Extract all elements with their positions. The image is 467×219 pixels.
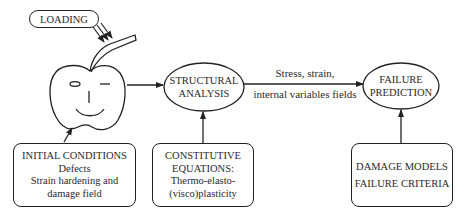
constitutive-equations-box: CONSTITUTIVE EQUATIONS: Thermo-elasto- (… — [152, 143, 254, 207]
damage-models-box: DAMAGE MODELS FAILURE CRITERIA — [351, 143, 453, 207]
failure-prediction-line1: FAILURE — [379, 73, 423, 86]
constitutive-equations-line: EQUATIONS: — [172, 163, 234, 176]
edge-label-line1: Stress, strain, — [250, 67, 360, 80]
structural-analysis-line2: ANALYSIS — [179, 87, 230, 100]
constitutive-equations-line: (visco)plasticity — [169, 188, 237, 201]
initial-conditions-title: INITIAL CONDITIONS — [22, 150, 127, 163]
structural-analysis-line1: STRUCTURAL — [170, 74, 239, 87]
edge-label-line2: internal variables fields — [244, 88, 366, 101]
damage-models-line: DAMAGE MODELS — [356, 158, 448, 175]
constitutive-equations-title: CONSTITUTIVE — [165, 150, 241, 163]
structural-analysis-label: STRUCTURAL ANALYSIS — [164, 64, 244, 110]
loading-label: LOADING — [29, 10, 99, 28]
loading-text: LOADING — [40, 14, 88, 25]
constitutive-equations-line: Thermo-elasto- — [171, 175, 236, 188]
apple-face-icon — [50, 35, 136, 130]
initial-conditions-line: Defects — [58, 163, 90, 176]
initial-conditions-line: Strain hardening and — [31, 175, 118, 188]
initial-conditions-line: damage field — [47, 188, 102, 201]
initial-conditions-box: INITIAL CONDITIONS Defects Strain harden… — [13, 143, 136, 207]
failure-criteria-line: FAILURE CRITERIA — [355, 175, 450, 192]
failure-prediction-label: FAILURE PREDICTION — [363, 63, 439, 109]
failure-prediction-line2: PREDICTION — [370, 86, 432, 99]
